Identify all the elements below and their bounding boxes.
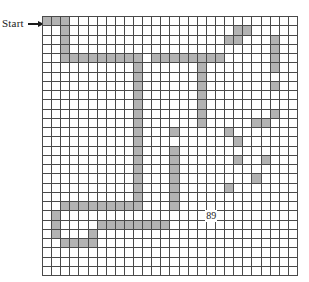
grid-cell bbox=[289, 221, 298, 230]
grid-cell bbox=[280, 258, 289, 267]
grid-cell bbox=[252, 137, 261, 146]
grid-cell bbox=[198, 110, 207, 119]
grid-cell bbox=[52, 230, 61, 239]
grid-cell bbox=[170, 17, 179, 26]
grid-cell bbox=[234, 147, 243, 156]
grid-cell bbox=[107, 211, 116, 220]
grid-cell bbox=[107, 267, 116, 276]
grid-cell bbox=[134, 26, 143, 35]
grid-cell bbox=[70, 156, 79, 165]
grid-cell bbox=[43, 147, 52, 156]
grid-cell bbox=[271, 193, 280, 202]
grid-cell bbox=[52, 211, 61, 220]
grid-cell bbox=[143, 174, 152, 183]
grid-cell bbox=[216, 26, 225, 35]
grid-cell bbox=[198, 239, 207, 248]
grid-cell bbox=[152, 17, 161, 26]
grid-cell bbox=[207, 137, 216, 146]
grid-cell bbox=[98, 91, 107, 100]
grid-cell bbox=[89, 267, 98, 276]
grid-cell bbox=[280, 45, 289, 54]
grid-cell bbox=[98, 193, 107, 202]
grid-cell bbox=[161, 137, 170, 146]
grid-cell bbox=[125, 147, 134, 156]
grid-cell bbox=[161, 239, 170, 248]
grid-cell bbox=[271, 239, 280, 248]
grid-cell bbox=[143, 248, 152, 257]
grid-cell bbox=[271, 184, 280, 193]
grid-cell bbox=[79, 174, 88, 183]
grid-cell bbox=[216, 156, 225, 165]
grid-cell bbox=[189, 128, 198, 137]
grid-cell bbox=[262, 184, 271, 193]
grid-cell bbox=[243, 239, 252, 248]
grid-cell bbox=[243, 230, 252, 239]
grid-cell bbox=[289, 91, 298, 100]
grid-cell bbox=[98, 119, 107, 128]
grid-cell bbox=[89, 248, 98, 257]
grid-cell bbox=[170, 54, 179, 63]
grid-cell bbox=[79, 110, 88, 119]
grid-cell bbox=[134, 221, 143, 230]
grid-cell bbox=[180, 165, 189, 174]
grid-cell bbox=[280, 211, 289, 220]
grid-cell bbox=[43, 91, 52, 100]
grid-cell bbox=[134, 267, 143, 276]
grid-cell bbox=[161, 17, 170, 26]
grid-cell bbox=[161, 267, 170, 276]
grid-cell bbox=[216, 63, 225, 72]
grid-cell bbox=[89, 119, 98, 128]
grid-cell bbox=[271, 63, 280, 72]
grid-cell bbox=[125, 258, 134, 267]
grid-cell bbox=[61, 73, 70, 82]
grid-cell bbox=[70, 258, 79, 267]
grid-cell bbox=[107, 230, 116, 239]
grid-cell bbox=[180, 137, 189, 146]
grid-cell bbox=[198, 174, 207, 183]
grid-cell bbox=[152, 239, 161, 248]
grid-cell bbox=[252, 100, 261, 109]
grid-cell bbox=[252, 82, 261, 91]
grid-cell bbox=[189, 110, 198, 119]
grid-cell bbox=[125, 267, 134, 276]
grid-cell bbox=[125, 248, 134, 257]
grid-cell bbox=[161, 100, 170, 109]
grid-cell bbox=[61, 137, 70, 146]
grid-cell bbox=[252, 73, 261, 82]
grid-cell bbox=[225, 239, 234, 248]
grid-cell bbox=[52, 193, 61, 202]
grid-cell bbox=[70, 26, 79, 35]
grid-cell bbox=[252, 230, 261, 239]
grid-cell bbox=[98, 239, 107, 248]
grid-cell bbox=[116, 128, 125, 137]
grid-cell bbox=[52, 221, 61, 230]
grid-cell bbox=[152, 165, 161, 174]
grid-cell bbox=[116, 82, 125, 91]
grid-cell bbox=[116, 73, 125, 82]
grid-cell bbox=[89, 110, 98, 119]
grid-cell bbox=[170, 73, 179, 82]
grid-cell bbox=[225, 17, 234, 26]
grid-cell bbox=[189, 17, 198, 26]
grid-cell bbox=[52, 54, 61, 63]
grid-cell bbox=[207, 184, 216, 193]
grid-cell bbox=[180, 45, 189, 54]
grid-cell bbox=[189, 91, 198, 100]
grid-cell bbox=[180, 147, 189, 156]
grid-cell bbox=[161, 147, 170, 156]
grid-cell bbox=[116, 137, 125, 146]
grid-cell bbox=[143, 193, 152, 202]
grid-cell bbox=[61, 156, 70, 165]
grid-cell bbox=[243, 193, 252, 202]
grid-cell bbox=[280, 26, 289, 35]
grid-cell bbox=[189, 54, 198, 63]
grid-cell bbox=[207, 156, 216, 165]
grid-cell bbox=[243, 267, 252, 276]
grid-cell bbox=[189, 147, 198, 156]
grid-cell bbox=[207, 221, 216, 230]
grid-cell bbox=[198, 17, 207, 26]
grid-cell bbox=[243, 147, 252, 156]
grid-cell bbox=[198, 91, 207, 100]
grid-cell bbox=[198, 221, 207, 230]
grid-cell bbox=[234, 26, 243, 35]
